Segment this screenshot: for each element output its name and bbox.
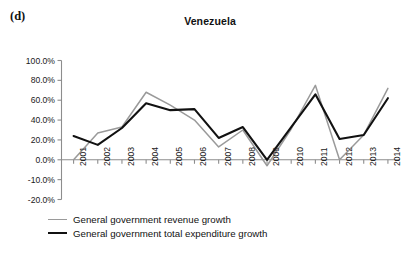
x-axis-tick-label: 2005 bbox=[174, 147, 184, 166]
legend-item-revenue: General government revenue growth bbox=[48, 212, 267, 226]
y-axis-tick-label: 40.0% bbox=[3, 116, 55, 125]
y-axis-labels: 100.0%80.0%60.0%40.0%20.0%0.0%-10.0%-20.… bbox=[0, 0, 55, 254]
x-axis-tick-label: 2006 bbox=[198, 147, 208, 166]
x-axis-tick-label: 2013 bbox=[368, 147, 378, 166]
y-axis-tick-label: 0.0% bbox=[3, 155, 55, 164]
x-axis-tick-label: 2004 bbox=[150, 147, 160, 166]
legend-line-icon-revenue bbox=[48, 219, 67, 220]
y-axis-tick-label: -20.0% bbox=[3, 195, 55, 204]
y-axis-tick-label: 80.0% bbox=[3, 76, 55, 85]
x-axis-tick-label: 2007 bbox=[223, 147, 233, 166]
legend-label-expenditure: General government total expenditure gro… bbox=[73, 228, 267, 239]
legend-item-expenditure: General government total expenditure gro… bbox=[48, 226, 267, 240]
legend-label-revenue: General government revenue growth bbox=[73, 214, 231, 225]
y-axis-tick-label: -10.0% bbox=[3, 175, 55, 184]
x-axis-tick-label: 2012 bbox=[344, 147, 354, 166]
x-axis-tick-label: 2010 bbox=[295, 147, 305, 166]
legend-line-icon-expenditure bbox=[48, 232, 67, 234]
y-axis-tick-label: 60.0% bbox=[3, 96, 55, 105]
chart-legend: General government revenue growth Genera… bbox=[48, 212, 267, 240]
y-axis-tick-label: 20.0% bbox=[3, 135, 55, 144]
x-axis-tick-label: 2002 bbox=[102, 147, 112, 166]
x-axis-tick-label: 2011 bbox=[319, 147, 329, 165]
x-axis-tick-label: 2014 bbox=[392, 147, 402, 166]
x-axis-tick-label: 2003 bbox=[126, 147, 136, 166]
x-axis-tick-label: 2009 bbox=[271, 147, 281, 166]
y-axis-tick-label: 100.0% bbox=[3, 56, 55, 65]
x-axis-tick-label: 2001 bbox=[78, 147, 88, 166]
figure-panel: (d) Venezuela 100.0%80.0%60.0%40.0%20.0%… bbox=[0, 0, 414, 254]
x-axis-tick-label: 2008 bbox=[247, 147, 257, 166]
